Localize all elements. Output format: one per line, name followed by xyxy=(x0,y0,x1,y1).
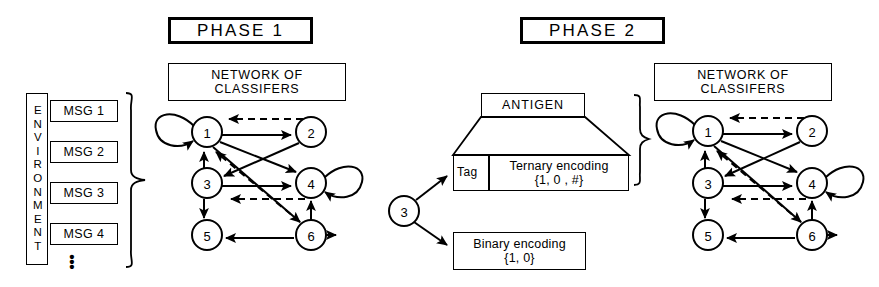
phase1-edge-1-6 xyxy=(213,147,300,222)
phase2-arrow-to-binary xyxy=(414,222,447,245)
phase1-environment-brace xyxy=(126,93,145,267)
phase2-antigen-connector xyxy=(453,117,629,155)
phase2-network-graph: 1 2 3 4 5 6 xyxy=(657,113,864,250)
diagram-vector-layer: 1 2 3 4 5 6 3 xyxy=(0,0,879,287)
phase1-network-graph: 1 2 3 4 5 6 xyxy=(156,114,363,250)
phase2-source-node-group: 3 xyxy=(389,176,447,245)
phase1-node-label-1: 1 xyxy=(203,126,210,141)
phase2-self-loop-node1 xyxy=(657,113,695,145)
phase1-node-label-3: 3 xyxy=(203,177,210,192)
phase2-node-label-5: 5 xyxy=(704,229,711,244)
diagram-canvas: PHASE 1 NETWORK OF CLASSIFERS ENVIRONMEN… xyxy=(0,0,879,287)
phase2-arrow-to-tag xyxy=(416,176,447,200)
phase1-self-loop-node1 xyxy=(156,114,194,146)
phase2-node-label-4: 4 xyxy=(808,177,815,192)
phase2-edge-1-6 xyxy=(714,146,801,222)
phase2-self-loop-node4 xyxy=(826,166,863,197)
phase2-node-label-3: 3 xyxy=(704,177,711,192)
phase2-node-label-2: 2 xyxy=(808,125,815,140)
phase1-self-loop-node4 xyxy=(325,166,362,197)
phase1-edge-1-4 xyxy=(220,142,296,172)
phase2-node-label-6: 6 xyxy=(808,229,815,244)
phase2-edge-1-4 xyxy=(721,141,797,172)
phase1-node-label-6: 6 xyxy=(307,229,314,244)
phase2-node-label-1: 1 xyxy=(704,125,711,140)
phase1-node-label-2: 2 xyxy=(307,126,314,141)
phase2-antigen-brace xyxy=(634,95,649,185)
phase1-node-label-5: 5 xyxy=(203,229,210,244)
phase1-node-label-4: 4 xyxy=(307,177,314,192)
phase2-source-node-label: 3 xyxy=(400,205,407,220)
